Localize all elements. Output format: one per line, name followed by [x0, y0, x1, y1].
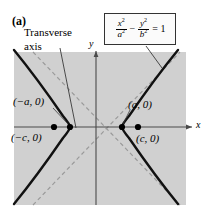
numerator-y: y2	[138, 19, 149, 28]
transverse-axis-label-line1: Transverse	[24, 26, 72, 38]
minus-operator: −	[130, 24, 136, 34]
label-focus-right: (c, 0)	[136, 132, 159, 144]
point-focus-right	[135, 124, 141, 130]
point-vertex-left	[67, 124, 73, 130]
x-axis-arrow-icon	[186, 125, 192, 130]
hyperbola-figure: (a) Transverse axis (−a, 0) (−c, 0) (a, …	[0, 0, 207, 221]
label-vertex-left: (−a, 0)	[13, 95, 44, 107]
denominator-a: a2	[116, 30, 128, 39]
equation-expression: x2 a2 − y2 b2 = 1	[115, 19, 166, 40]
point-vertex-right	[119, 124, 125, 130]
equation-box: x2 a2 − y2 b2 = 1	[104, 13, 176, 45]
y-axis-label: y	[89, 38, 93, 49]
fraction-y-squared-over-b-squared: y2 b2	[138, 19, 150, 40]
equals-one: = 1	[152, 24, 165, 34]
label-focus-left: (−c, 0)	[11, 131, 42, 143]
numerator-x: x2	[116, 19, 127, 28]
fraction-x-squared-over-a-squared: x2 a2	[116, 19, 128, 40]
transverse-axis-label-line2: axis	[24, 40, 42, 52]
point-focus-left	[51, 124, 57, 130]
x-axis-label: x	[196, 119, 200, 130]
label-vertex-right: (a, 0)	[128, 98, 152, 110]
denominator-b: b2	[138, 30, 150, 39]
